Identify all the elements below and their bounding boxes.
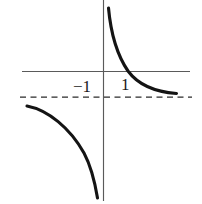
- x-tick-label-negative-one: −1: [73, 78, 91, 95]
- curve-lower-left-branch: [27, 106, 98, 198]
- math-figure: −1 1: [0, 0, 202, 204]
- x-tick-label-one: 1: [121, 76, 130, 93]
- curve-upper-right-branch: [109, 8, 177, 94]
- plot-canvas: [0, 0, 202, 204]
